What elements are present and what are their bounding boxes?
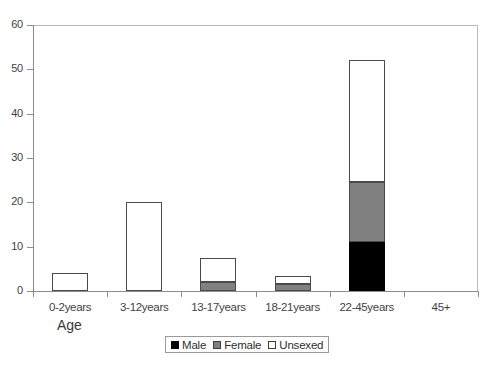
y-axis-tick-label: 30 — [0, 152, 23, 163]
bar-18-21years — [275, 275, 311, 291]
x-axis-tick — [107, 292, 108, 297]
x-axis-label-22-45years: 22-45years — [330, 300, 404, 314]
x-axis-label-3-12years: 3-12years — [107, 300, 181, 314]
x-axis-label-0-2years: 0-2years — [33, 300, 107, 314]
bar-segment-female — [200, 282, 236, 291]
bar-segment-unsexed — [200, 258, 236, 282]
x-axis-label-18-21years: 18-21years — [256, 300, 330, 314]
legend-item-male: Male — [171, 339, 206, 351]
bar-segment-female — [275, 284, 311, 291]
x-axis-title: Age — [57, 317, 82, 333]
y-axis-tick-label: 0 — [0, 285, 23, 296]
bar-segment-unsexed — [275, 276, 311, 285]
legend-swatch-unsexed — [268, 341, 276, 349]
x-axis-label-45+: 45+ — [404, 300, 478, 314]
bar-segment-unsexed — [349, 60, 385, 182]
legend-item-female: Female — [213, 339, 261, 351]
bar-3-12years — [126, 202, 162, 291]
legend-item-unsexed: Unsexed — [268, 339, 323, 351]
y-axis-tick-label: 40 — [0, 108, 23, 119]
x-axis-tick — [330, 292, 331, 297]
y-axis-tick-label: 10 — [0, 241, 23, 252]
legend-swatch-male — [171, 341, 179, 349]
legend-label-unsexed: Unsexed — [279, 339, 323, 351]
bar-chart: 0102030405060 0-2years3-12years13-17year… — [0, 0, 493, 377]
y-axis-tick-label: 20 — [0, 196, 23, 207]
x-axis-tick — [33, 292, 34, 297]
x-axis-labels: 0-2years3-12years13-17years18-21years22-… — [33, 300, 478, 318]
x-axis-tick — [478, 292, 479, 297]
bar-segment-male — [349, 242, 385, 291]
bar-22-45years — [349, 60, 385, 291]
x-axis-label-13-17years: 13-17years — [181, 300, 255, 314]
bar-segment-unsexed — [126, 202, 162, 291]
bar-0-2years — [52, 273, 88, 291]
legend-swatch-female — [213, 341, 221, 349]
bar-13-17years — [200, 258, 236, 291]
y-axis-tick-label: 60 — [0, 19, 23, 30]
legend-label-female: Female — [224, 339, 261, 351]
x-axis-tick — [404, 292, 405, 297]
bar-segment-female — [349, 182, 385, 242]
chart-legend: MaleFemaleUnsexed — [165, 336, 329, 353]
y-axis-tick-label: 50 — [0, 63, 23, 74]
x-axis-tick — [181, 292, 182, 297]
legend-label-male: Male — [182, 339, 206, 351]
x-axis-tick — [256, 292, 257, 297]
bars-layer — [33, 25, 478, 291]
bar-segment-unsexed — [52, 273, 88, 291]
